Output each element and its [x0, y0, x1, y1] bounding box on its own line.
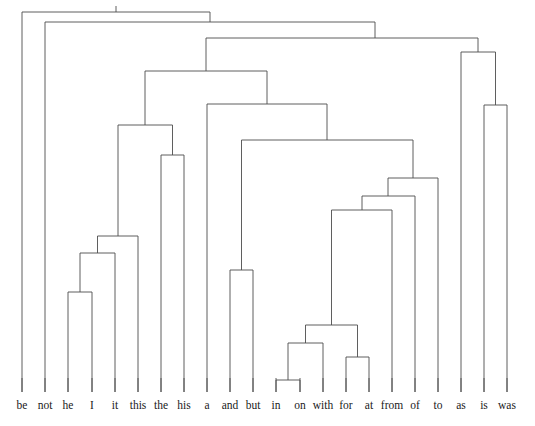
leaf-label-of: of — [410, 400, 420, 412]
merge-link-m14 — [242, 140, 414, 270]
leaf-label-with: with — [313, 400, 333, 412]
leaf-label-as: as — [456, 400, 466, 412]
leaf-label-the: the — [154, 400, 168, 412]
merge-link-m19 — [206, 38, 478, 71]
dendrogram-figure: benotheIitthisthehisaandbutinonwithforat… — [0, 0, 535, 426]
leaf-label-he: he — [63, 400, 74, 412]
merge-link-m2 — [80, 253, 115, 392]
merge-link-m4 — [161, 155, 184, 392]
leaf-label-to: to — [434, 400, 443, 412]
leaf-label-but: but — [246, 400, 261, 412]
merge-link-m9 — [346, 357, 369, 392]
merge-link-m12 — [362, 196, 415, 392]
leaf-label-not: not — [38, 400, 53, 412]
leaf-label-be: be — [17, 400, 28, 412]
leaf-label-from: from — [381, 400, 403, 412]
leaf-label-a: a — [204, 400, 209, 412]
merge-link-m18 — [461, 52, 496, 392]
merge-link-m15 — [207, 104, 327, 392]
leaf-label-it: it — [112, 400, 118, 412]
leaf-label-for: for — [339, 400, 352, 412]
merge-link-m1 — [68, 292, 92, 392]
leaf-label-at: at — [365, 400, 373, 412]
merge-link-m10 — [306, 325, 358, 357]
merge-link-m11 — [332, 210, 393, 392]
merge-link-m3 — [98, 236, 139, 392]
leaf-label-his: his — [177, 400, 190, 412]
merge-link-m13 — [388, 178, 438, 392]
leaf-label-this: this — [130, 400, 147, 412]
leaf-label-was: was — [498, 400, 516, 412]
leaf-label-and: and — [222, 400, 239, 412]
merge-link-m5 — [118, 125, 173, 236]
merge-link-m16 — [145, 71, 267, 125]
merge-link-m8 — [288, 343, 323, 392]
leaf-label-on: on — [294, 400, 306, 412]
dendrogram-canvas — [0, 0, 535, 426]
leaf-label-i: I — [90, 400, 94, 412]
leaf-label-in: in — [272, 400, 281, 412]
merge-link-m7 — [276, 380, 300, 392]
merge-link-m20 — [45, 22, 375, 392]
merge-link-m6 — [230, 270, 253, 392]
leaf-label-is: is — [480, 400, 488, 412]
merge-link-m17 — [484, 105, 507, 392]
merge-link-m21 — [22, 12, 210, 392]
